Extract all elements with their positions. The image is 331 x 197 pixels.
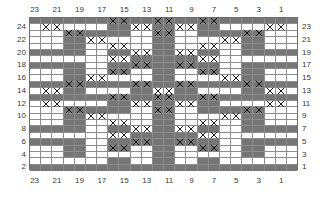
chart-cell-filled[interactable] bbox=[220, 165, 231, 171]
chart-cell-filled[interactable] bbox=[97, 165, 108, 171]
chart-cell-filled[interactable] bbox=[30, 165, 41, 171]
row-label-right-23: 23 bbox=[302, 22, 316, 31]
col-label-top-13: 13 bbox=[140, 5, 154, 14]
row-label-left-4: 4 bbox=[12, 150, 26, 159]
row-label-left-12: 12 bbox=[12, 99, 26, 108]
col-label-bottom-15: 15 bbox=[117, 176, 131, 185]
col-label-top-21: 21 bbox=[50, 5, 64, 14]
col-label-top-9: 9 bbox=[185, 5, 199, 14]
row-label-right-1: 1 bbox=[302, 162, 316, 171]
chart-cell-filled[interactable] bbox=[253, 165, 264, 171]
chart-cell-filled[interactable] bbox=[198, 165, 209, 171]
col-label-top-15: 15 bbox=[117, 5, 131, 14]
col-label-top-5: 5 bbox=[229, 5, 243, 14]
col-label-bottom-21: 21 bbox=[50, 176, 64, 185]
chart-cell-filled[interactable] bbox=[108, 165, 119, 171]
row-label-left-6: 6 bbox=[12, 137, 26, 146]
chart-cell-filled[interactable] bbox=[231, 165, 242, 171]
chart-cell-filled[interactable] bbox=[265, 165, 276, 171]
col-label-bottom-17: 17 bbox=[95, 176, 109, 185]
row-label-left-22: 22 bbox=[12, 35, 26, 44]
col-label-bottom-3: 3 bbox=[252, 176, 266, 185]
chart-cell-filled[interactable] bbox=[242, 165, 253, 171]
chart-cell-filled[interactable] bbox=[41, 165, 52, 171]
chart-cell-filled[interactable] bbox=[209, 165, 220, 171]
row-label-right-15: 15 bbox=[302, 73, 316, 82]
col-label-bottom-23: 23 bbox=[28, 176, 42, 185]
col-label-bottom-13: 13 bbox=[140, 176, 154, 185]
col-label-bottom-11: 11 bbox=[162, 176, 176, 185]
row-label-left-16: 16 bbox=[12, 73, 26, 82]
col-label-top-23: 23 bbox=[28, 5, 42, 14]
chart-cell-filled[interactable] bbox=[153, 165, 164, 171]
row-label-left-10: 10 bbox=[12, 111, 26, 120]
row-label-left-14: 14 bbox=[12, 86, 26, 95]
chart-row bbox=[30, 165, 297, 171]
chart-cell-filled[interactable] bbox=[75, 165, 86, 171]
col-label-top-17: 17 bbox=[95, 5, 109, 14]
col-label-bottom-9: 9 bbox=[185, 176, 199, 185]
chart-cell-filled[interactable] bbox=[186, 165, 197, 171]
row-label-right-11: 11 bbox=[302, 99, 316, 108]
row-label-right-19: 19 bbox=[302, 48, 316, 57]
row-label-left-20: 20 bbox=[12, 48, 26, 57]
row-label-right-7: 7 bbox=[302, 124, 316, 133]
row-label-right-21: 21 bbox=[302, 35, 316, 44]
chart-cell-filled[interactable] bbox=[276, 165, 287, 171]
row-label-right-3: 3 bbox=[302, 150, 316, 159]
row-label-left-8: 8 bbox=[12, 124, 26, 133]
chart-cell-filled[interactable] bbox=[52, 165, 63, 171]
row-label-left-18: 18 bbox=[12, 60, 26, 69]
chart-cell-filled[interactable] bbox=[119, 165, 130, 171]
row-label-right-13: 13 bbox=[302, 86, 316, 95]
row-label-right-17: 17 bbox=[302, 60, 316, 69]
row-label-left-2: 2 bbox=[12, 162, 26, 171]
chart-grid[interactable] bbox=[29, 17, 298, 170]
col-label-top-19: 19 bbox=[72, 5, 86, 14]
col-label-bottom-5: 5 bbox=[229, 176, 243, 185]
chart-cell-filled[interactable] bbox=[142, 165, 153, 171]
col-label-top-1: 1 bbox=[274, 5, 288, 14]
chart-cell-filled[interactable] bbox=[164, 165, 175, 171]
chart-cell-filled[interactable] bbox=[131, 165, 142, 171]
row-label-right-9: 9 bbox=[302, 111, 316, 120]
knitting-chart: 2321191715131197531 2321191715131197531 … bbox=[0, 0, 331, 197]
chart-cell-filled[interactable] bbox=[86, 165, 97, 171]
chart-cell-filled[interactable] bbox=[64, 165, 75, 171]
row-label-left-24: 24 bbox=[12, 22, 26, 31]
chart-cell-filled[interactable] bbox=[175, 165, 186, 171]
col-label-bottom-1: 1 bbox=[274, 176, 288, 185]
row-label-right-5: 5 bbox=[302, 137, 316, 146]
chart-cell-filled[interactable] bbox=[287, 165, 297, 171]
col-label-bottom-7: 7 bbox=[207, 176, 221, 185]
col-label-bottom-19: 19 bbox=[72, 176, 86, 185]
col-label-top-3: 3 bbox=[252, 5, 266, 14]
col-label-top-7: 7 bbox=[207, 5, 221, 14]
col-label-top-11: 11 bbox=[162, 5, 176, 14]
